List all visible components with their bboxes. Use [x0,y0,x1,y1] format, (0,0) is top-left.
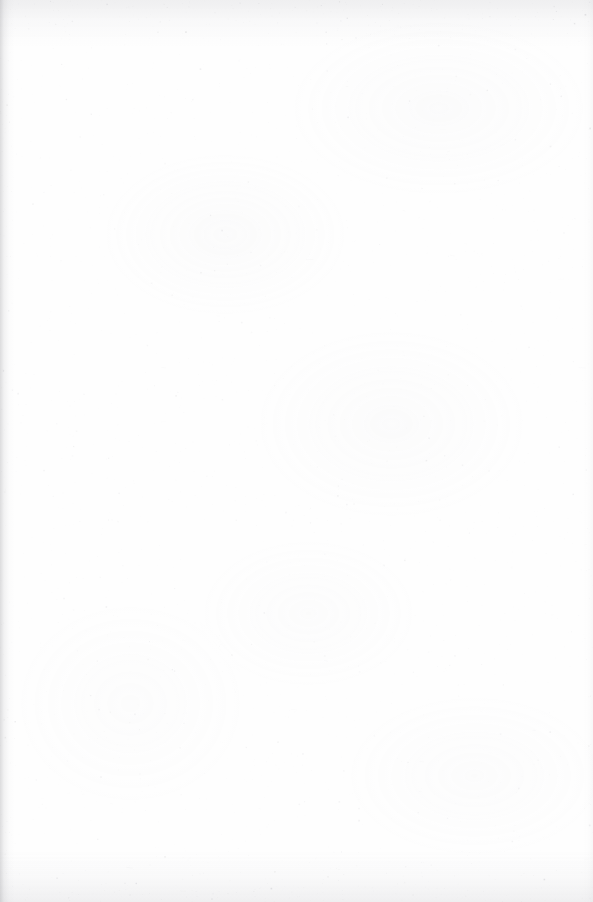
page-body-text [0,0,593,902]
scanned-page [0,0,593,902]
